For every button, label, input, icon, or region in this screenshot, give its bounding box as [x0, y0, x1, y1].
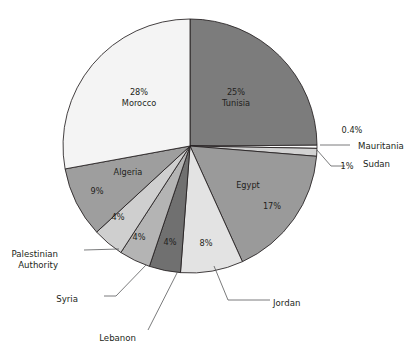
- callout-name-mauritania: Mauritania: [358, 141, 404, 151]
- slice-percent-syria: 4%: [133, 232, 146, 242]
- slice-name-egypt: Egypt: [236, 180, 260, 190]
- slice-name-morocco: Morocco: [122, 98, 156, 108]
- pie-slices-group: [63, 19, 317, 273]
- callout-name-sudan: Sudan: [363, 159, 390, 169]
- palestinian-leader: [84, 249, 119, 250]
- slice-percent-jordan: 8%: [200, 238, 213, 248]
- syria-leader: [104, 265, 146, 296]
- callout-name-palestinian-authority: PalestinianAuthority: [11, 249, 58, 270]
- slice-percent-egypt: 17%: [263, 201, 281, 211]
- slice-percent-algeria: 9%: [91, 186, 104, 196]
- slice-name-tunisia: Tunisia: [221, 98, 250, 108]
- slice-percent-tunisia: 25%: [227, 87, 245, 97]
- callout-percent-mauritania: 0.4%: [342, 125, 363, 135]
- callout-percent-sudan: 1%: [341, 161, 354, 171]
- slice-name-algeria: Algeria: [114, 167, 143, 177]
- pie-slice-morocco[interactable]: [63, 19, 190, 169]
- callout-name-jordan: Jordan: [272, 298, 300, 308]
- lebanon-leader: [148, 271, 178, 330]
- pie-slice-tunisia[interactable]: [190, 19, 317, 146]
- callout-name-syria: Syria: [56, 294, 78, 304]
- slice-percent-morocco: 28%: [130, 87, 148, 97]
- callout-name-lebanon: Lebanon: [99, 333, 136, 343]
- pie-chart-svg: 25%Tunisia0.4%Mauritania1%Sudan17%Egypt8…: [0, 0, 415, 359]
- slice-percent-palestinian-authority: 4%: [112, 212, 125, 222]
- slice-percent-lebanon: 4%: [164, 237, 177, 247]
- pie-chart-figure: 25%Tunisia0.4%Mauritania1%Sudan17%Egypt8…: [0, 0, 415, 359]
- jordan-leader: [214, 266, 270, 300]
